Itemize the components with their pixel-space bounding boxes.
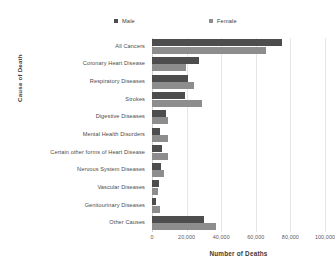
bar-male[interactable] — [152, 180, 159, 187]
y-axis-tick-label: All Cancers — [115, 43, 145, 49]
bar-female[interactable] — [152, 64, 186, 71]
x-axis-tick-label: 20,000 — [178, 234, 195, 240]
x-axis-tick-labels: 020,00040,00060,00080,000100,000 — [152, 234, 325, 244]
y-axis-tick-label: Coronary Heart Disease — [83, 60, 145, 66]
x-axis-tick-label: 0 — [150, 234, 153, 240]
x-axis-tick-label: 60,000 — [247, 234, 264, 240]
x-axis-title: Number of Deaths — [152, 250, 325, 257]
bar-group — [152, 128, 325, 143]
bar-group — [152, 216, 325, 231]
bar-group — [152, 145, 325, 160]
bar-female[interactable] — [152, 170, 164, 177]
bar-female[interactable] — [152, 100, 202, 107]
bar-male[interactable] — [152, 145, 162, 152]
x-axis-tick-label: 100,000 — [315, 234, 335, 240]
y-axis-tick-label: Respiratory Diseases — [90, 78, 145, 84]
bar-male[interactable] — [152, 163, 161, 170]
y-axis-tick-labels: All CancersCoronary Heart DiseaseRespira… — [0, 38, 149, 232]
bar-female[interactable] — [152, 117, 168, 124]
y-axis-tick-label: Nervous System Diseases — [77, 166, 145, 172]
legend-label-female: Female — [217, 18, 237, 24]
grid-line — [325, 38, 326, 232]
bar-female[interactable] — [152, 153, 168, 160]
bar-male[interactable] — [152, 128, 160, 135]
bar-female[interactable] — [152, 206, 160, 213]
bar-group — [152, 39, 325, 54]
plot-area — [152, 38, 325, 232]
bar-female[interactable] — [152, 47, 266, 54]
bar-male[interactable] — [152, 57, 199, 64]
bar-group — [152, 57, 325, 72]
bar-male[interactable] — [152, 198, 156, 205]
bar-female[interactable] — [152, 82, 194, 89]
bar-female[interactable] — [152, 223, 216, 230]
legend-item-male[interactable]: Male — [114, 18, 135, 24]
y-axis-tick-label: Vascular Diseases — [97, 184, 145, 190]
bar-group — [152, 198, 325, 213]
bar-group — [152, 180, 325, 195]
bar-group — [152, 110, 325, 125]
bar-group — [152, 75, 325, 90]
bar-male[interactable] — [152, 39, 282, 46]
legend-swatch-female-icon — [209, 19, 213, 23]
y-axis-tick-label: Mental Health Disorders — [83, 131, 145, 137]
y-axis-tick-label: Other Causes — [109, 219, 145, 225]
bar-male[interactable] — [152, 75, 188, 82]
y-axis-tick-label: Genitourinary Diseases — [85, 202, 145, 208]
y-axis-tick-label: Strokes — [125, 96, 145, 102]
y-axis-tick-label: Certain other forms of Heart Disease — [50, 149, 145, 155]
bar-male[interactable] — [152, 92, 185, 99]
x-axis-tick-label: 40,000 — [213, 234, 230, 240]
legend-label-male: Male — [122, 18, 135, 24]
bar-group — [152, 92, 325, 107]
x-axis-tick-label: 80,000 — [282, 234, 299, 240]
bar-male[interactable] — [152, 110, 166, 117]
bar-group — [152, 163, 325, 178]
legend-swatch-male-icon — [114, 19, 118, 23]
legend-item-female[interactable]: Female — [209, 18, 237, 24]
chart-legend: Male Female — [0, 18, 332, 30]
bar-female[interactable] — [152, 188, 158, 195]
y-axis-tick-label: Digestive Diseases — [96, 113, 145, 119]
bar-female[interactable] — [152, 135, 168, 142]
bar-male[interactable] — [152, 216, 204, 223]
